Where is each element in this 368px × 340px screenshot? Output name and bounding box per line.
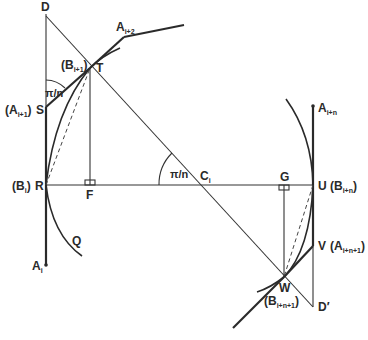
label-D-prime: D′	[318, 300, 330, 314]
label-A-i1: (Ai+1)	[5, 103, 32, 118]
label-pi-n-D: π/n	[45, 87, 63, 99]
label-Q: Q	[72, 234, 81, 248]
label-A-in1: (Ai+n+1)	[330, 239, 365, 254]
label-V: V	[318, 239, 326, 253]
label-B-i1: (Bi+1)	[61, 58, 88, 73]
label-B-in1: (Bi+n+1)	[264, 294, 299, 309]
label-S: S	[36, 103, 44, 117]
label-A-i2: Ai+2	[116, 20, 135, 35]
label-D: D	[41, 0, 50, 14]
arc-right-upper	[286, 99, 313, 185]
chord-U-W	[284, 185, 313, 277]
arc-right-lower	[257, 185, 313, 292]
label-F: F	[86, 188, 93, 202]
label-B-i: (Bi)	[12, 179, 31, 194]
point-Ai	[44, 263, 48, 267]
label-pi-n-Ci: π/n	[170, 168, 188, 180]
label-C-i: Ci	[200, 169, 211, 184]
label-R: R	[35, 179, 44, 193]
label-G: G	[280, 170, 289, 184]
chord-R-T	[46, 68, 90, 185]
label-B-in: (Bi+n)	[330, 179, 357, 194]
geometric-diagram: D Ai+2 (Bi+1) T π/n (Ai+1) S (Bi) R F π/…	[0, 0, 368, 340]
label-A-i: Ai	[32, 259, 43, 274]
point-Ain	[311, 104, 315, 108]
label-W: W	[279, 281, 291, 295]
label-T: T	[96, 61, 104, 75]
label-A-in: Ai+n	[318, 101, 337, 116]
label-U: U	[318, 179, 327, 193]
